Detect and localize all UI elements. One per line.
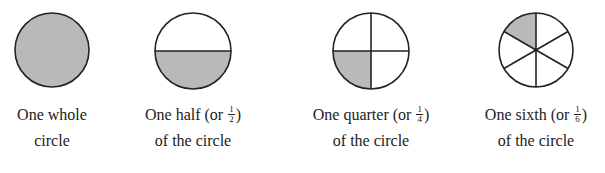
quarter-label-suffix: ) [424,106,429,123]
half-label-line1: One half (or 12) [133,102,253,128]
half-circle-label: One half (or 12) of the circle [133,102,253,154]
sixth-label-prefix: One sixth (or [485,106,573,123]
sixth-label-suffix: ) [582,106,587,123]
quarter-label-prefix: One quarter (or [313,106,416,123]
fraction-denominator: 6 [574,115,581,124]
quarter-circle-label: One quarter (or 14) of the circle [301,102,441,154]
quarter-label-line2: of the circle [301,128,441,154]
sixth-circle [499,13,573,87]
half-label-line2: of the circle [133,128,253,154]
quarter-label-line1: One quarter (or 14) [301,102,441,128]
half-label-prefix: One half (or [145,106,227,123]
half-fraction: 12 [228,105,235,124]
sixth-label-line1: One sixth (or 16) [471,102,601,128]
whole-label-line2: circle [2,128,102,154]
quarter-circle [333,13,409,89]
whole-circle [15,13,89,87]
whole-circle-label: One whole circle [2,102,102,154]
half-label-suffix: ) [236,106,241,123]
whole-label-line1: One whole [2,102,102,128]
sixth-circle-label: One sixth (or 16) of the circle [471,102,601,154]
sixth-label-line2: of the circle [471,128,601,154]
half-circle [155,13,231,89]
fraction-denominator: 4 [416,115,423,124]
fraction-denominator: 2 [228,115,235,124]
sixth-fraction: 16 [574,105,581,124]
quarter-fraction: 14 [416,105,423,124]
